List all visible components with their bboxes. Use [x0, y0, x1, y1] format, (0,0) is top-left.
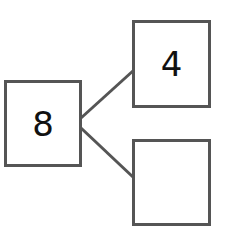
part-box-top: 4	[132, 20, 211, 108]
part-box-bottom[interactable]	[132, 139, 211, 226]
whole-value: 8	[32, 104, 54, 144]
connector-bottom	[81, 128, 134, 178]
part-top-value: 4	[161, 44, 183, 84]
whole-box: 8	[4, 80, 82, 167]
connector-top	[81, 70, 134, 118]
